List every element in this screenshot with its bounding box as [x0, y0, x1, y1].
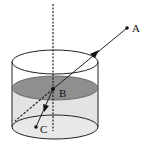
point-b	[51, 87, 55, 91]
incident-ray	[53, 28, 127, 89]
label-a: A	[132, 22, 140, 34]
label-b: B	[59, 87, 66, 99]
refraction-diagram: A B C	[0, 0, 149, 147]
point-c	[34, 125, 38, 129]
label-c: C	[40, 123, 47, 135]
container-bottom-ellipse	[12, 115, 98, 139]
water-surface	[12, 76, 98, 100]
point-a	[125, 26, 129, 30]
